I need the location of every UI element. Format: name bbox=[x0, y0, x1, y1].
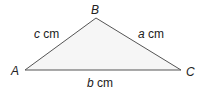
side-label-b: b cm bbox=[87, 76, 113, 90]
side-c-unit: cm bbox=[40, 27, 59, 41]
side-label-a: a cm bbox=[138, 27, 164, 41]
vertex-label-b: B bbox=[91, 3, 99, 17]
side-b-unit: cm bbox=[94, 76, 113, 90]
triangle-abc bbox=[25, 18, 181, 70]
vertex-label-a: A bbox=[10, 64, 19, 78]
vertex-label-c: C bbox=[186, 65, 195, 79]
triangle-diagram: A B C c cm a cm b cm bbox=[0, 0, 207, 93]
side-a-unit: cm bbox=[145, 27, 164, 41]
side-label-c: c cm bbox=[34, 27, 59, 41]
